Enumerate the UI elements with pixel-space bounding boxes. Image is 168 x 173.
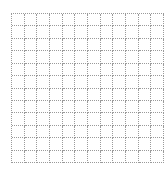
grid-cell[interactable] bbox=[113, 89, 126, 101]
grid-cell[interactable] bbox=[37, 126, 50, 138]
grid-cell[interactable] bbox=[151, 89, 164, 101]
grid-cell[interactable] bbox=[113, 51, 126, 63]
grid-cell[interactable] bbox=[75, 51, 88, 63]
grid-cell[interactable] bbox=[50, 14, 63, 26]
grid-cell[interactable] bbox=[12, 64, 25, 76]
grid-cell[interactable] bbox=[101, 39, 114, 51]
grid-cell[interactable] bbox=[50, 64, 63, 76]
grid-cell[interactable] bbox=[139, 89, 152, 101]
grid-cell[interactable] bbox=[126, 14, 139, 26]
dotted-grid-canvas[interactable] bbox=[11, 13, 164, 163]
grid-cell[interactable] bbox=[88, 113, 101, 125]
grid-cell[interactable] bbox=[126, 76, 139, 88]
grid-cell[interactable] bbox=[63, 89, 76, 101]
grid-cell[interactable] bbox=[151, 14, 164, 26]
grid-cell[interactable] bbox=[126, 101, 139, 113]
grid-cell[interactable] bbox=[25, 76, 38, 88]
grid-cell[interactable] bbox=[25, 138, 38, 150]
grid-cell[interactable] bbox=[12, 76, 25, 88]
grid-cell[interactable] bbox=[37, 89, 50, 101]
grid-cell[interactable] bbox=[12, 14, 25, 26]
grid-cell[interactable] bbox=[151, 101, 164, 113]
grid-cell[interactable] bbox=[101, 51, 114, 63]
grid-cell[interactable] bbox=[63, 64, 76, 76]
grid-cell[interactable] bbox=[126, 126, 139, 138]
grid-cell[interactable] bbox=[50, 101, 63, 113]
grid-cell[interactable] bbox=[37, 76, 50, 88]
grid-cell[interactable] bbox=[12, 39, 25, 51]
grid-cell[interactable] bbox=[12, 138, 25, 150]
grid-cell[interactable] bbox=[113, 138, 126, 150]
grid-cell[interactable] bbox=[88, 39, 101, 51]
grid-cell[interactable] bbox=[151, 113, 164, 125]
grid-cell[interactable] bbox=[63, 26, 76, 38]
grid-cell[interactable] bbox=[101, 89, 114, 101]
grid-cell[interactable] bbox=[126, 138, 139, 150]
grid-cell[interactable] bbox=[151, 126, 164, 138]
grid-cell[interactable] bbox=[126, 51, 139, 63]
grid-cell[interactable] bbox=[25, 113, 38, 125]
grid-cell[interactable] bbox=[25, 14, 38, 26]
grid-cell[interactable] bbox=[101, 64, 114, 76]
grid-cell[interactable] bbox=[50, 51, 63, 63]
grid-cell[interactable] bbox=[63, 126, 76, 138]
grid-cell[interactable] bbox=[101, 138, 114, 150]
grid-cell[interactable] bbox=[25, 64, 38, 76]
grid-cell[interactable] bbox=[139, 126, 152, 138]
grid-cell[interactable] bbox=[75, 101, 88, 113]
grid-cell[interactable] bbox=[88, 64, 101, 76]
grid-cell[interactable] bbox=[139, 101, 152, 113]
grid-cell[interactable] bbox=[113, 113, 126, 125]
grid-cell[interactable] bbox=[63, 39, 76, 51]
grid-cell[interactable] bbox=[88, 126, 101, 138]
grid-cell[interactable] bbox=[37, 151, 50, 163]
grid-cell[interactable] bbox=[126, 39, 139, 51]
grid-cell[interactable] bbox=[126, 26, 139, 38]
grid-cell[interactable] bbox=[101, 126, 114, 138]
grid-cell[interactable] bbox=[75, 76, 88, 88]
grid-cell[interactable] bbox=[25, 126, 38, 138]
grid-cell[interactable] bbox=[101, 151, 114, 163]
grid-cell[interactable] bbox=[88, 89, 101, 101]
grid-cell[interactable] bbox=[63, 14, 76, 26]
grid-cell[interactable] bbox=[88, 14, 101, 26]
grid-cell[interactable] bbox=[151, 76, 164, 88]
grid-cell[interactable] bbox=[63, 151, 76, 163]
grid-cell[interactable] bbox=[126, 64, 139, 76]
grid-cell[interactable] bbox=[101, 101, 114, 113]
grid-cell[interactable] bbox=[75, 151, 88, 163]
grid-cell[interactable] bbox=[37, 64, 50, 76]
grid-cell[interactable] bbox=[37, 101, 50, 113]
grid-cell[interactable] bbox=[37, 39, 50, 51]
grid-cell[interactable] bbox=[113, 26, 126, 38]
grid-cell[interactable] bbox=[139, 39, 152, 51]
grid-cell[interactable] bbox=[75, 138, 88, 150]
grid-cell[interactable] bbox=[37, 14, 50, 26]
grid-cell[interactable] bbox=[12, 126, 25, 138]
grid-cell[interactable] bbox=[113, 101, 126, 113]
grid-cell[interactable] bbox=[12, 51, 25, 63]
grid-cell[interactable] bbox=[12, 26, 25, 38]
grid-cell[interactable] bbox=[75, 39, 88, 51]
grid-cell[interactable] bbox=[75, 64, 88, 76]
grid-cell[interactable] bbox=[151, 151, 164, 163]
grid-cell[interactable] bbox=[113, 64, 126, 76]
grid-cell[interactable] bbox=[75, 14, 88, 26]
grid-cell[interactable] bbox=[37, 51, 50, 63]
grid-cell[interactable] bbox=[25, 89, 38, 101]
grid-cell[interactable] bbox=[126, 151, 139, 163]
grid-cell[interactable] bbox=[25, 151, 38, 163]
grid-cell[interactable] bbox=[88, 26, 101, 38]
grid-cell[interactable] bbox=[63, 76, 76, 88]
grid-cell[interactable] bbox=[37, 138, 50, 150]
grid-cell[interactable] bbox=[139, 76, 152, 88]
grid-cell[interactable] bbox=[139, 151, 152, 163]
grid-cell[interactable] bbox=[113, 151, 126, 163]
grid-cell[interactable] bbox=[25, 51, 38, 63]
grid-cell[interactable] bbox=[12, 89, 25, 101]
grid-cell[interactable] bbox=[139, 51, 152, 63]
grid-cell[interactable] bbox=[139, 26, 152, 38]
grid-cell[interactable] bbox=[101, 14, 114, 26]
grid-cell[interactable] bbox=[113, 126, 126, 138]
grid-cell[interactable] bbox=[50, 89, 63, 101]
